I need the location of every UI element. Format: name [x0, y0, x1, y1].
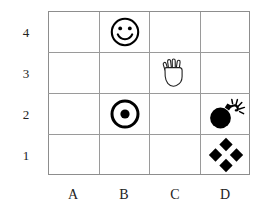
- grid-cell-b1[interactable]: [100, 135, 150, 175]
- grid-cell-d4[interactable]: [201, 12, 251, 52]
- smiley-face-icon: [109, 16, 141, 48]
- column-label-a: A: [48, 188, 98, 202]
- column-label-d: D: [200, 188, 250, 202]
- column-label-c: C: [150, 188, 200, 202]
- grid-cell-d2[interactable]: [201, 94, 251, 134]
- row-label-2: 2: [16, 108, 36, 121]
- grid-cell-a3[interactable]: [49, 53, 99, 93]
- column-label-b: B: [99, 188, 149, 202]
- grid-cell-a1[interactable]: [49, 135, 99, 175]
- grid-cell-b3[interactable]: [100, 53, 150, 93]
- row-label-1: 1: [16, 149, 36, 162]
- grid-cell-d3[interactable]: [201, 53, 251, 93]
- grid-cell-c4[interactable]: [150, 12, 200, 52]
- grid-board: 4 3 2 1 A B C D: [0, 0, 267, 213]
- grid-cell-c3[interactable]: [150, 53, 200, 93]
- grid-cell-a2[interactable]: [49, 94, 99, 134]
- grid-cell-d1[interactable]: [201, 135, 251, 175]
- grid-cell-a4[interactable]: [49, 12, 99, 52]
- grid-cell-c1[interactable]: [150, 135, 200, 175]
- grid-cell-c2[interactable]: [150, 94, 200, 134]
- open-hand-icon: [160, 56, 190, 90]
- bomb-icon: [206, 97, 246, 131]
- row-label-3: 3: [16, 67, 36, 80]
- grid-cell-b4[interactable]: [100, 12, 150, 52]
- bullseye-target-icon: [109, 98, 141, 130]
- row-label-4: 4: [16, 26, 36, 39]
- grid-cell-b2[interactable]: [100, 94, 150, 134]
- grid: [48, 11, 250, 175]
- four-diamonds-icon: [209, 138, 243, 172]
